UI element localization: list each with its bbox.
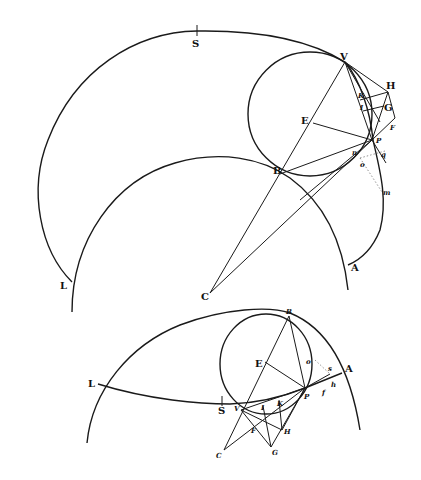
label-top-B: B	[273, 165, 281, 176]
label-top-o: o	[360, 160, 365, 169]
label-top-I: I	[359, 103, 364, 112]
label-bottom-I: I	[260, 403, 265, 412]
bottom-figure: B E o s A L P f h S V I K F H C G	[87, 307, 360, 460]
label-bottom-F: F	[250, 426, 257, 435]
label-bottom-A: A	[344, 363, 353, 374]
line-CP	[224, 388, 305, 450]
label-bottom-K: K	[276, 399, 284, 408]
label-top-G: G	[384, 102, 393, 113]
label-top-L: L	[60, 280, 67, 291]
label-top-n: n	[352, 148, 357, 157]
line-BP	[280, 140, 372, 174]
line-Pn	[300, 140, 372, 200]
label-bottom-f: f	[321, 388, 327, 397]
label-bottom-L: L	[88, 378, 95, 389]
label-bottom-C: C	[216, 451, 222, 460]
label-bottom-G: G	[272, 448, 278, 457]
label-top-S: S	[192, 38, 199, 49]
label-top-q: q	[381, 150, 386, 159]
label-bottom-s: s	[328, 364, 332, 373]
label-top-K: K	[357, 91, 365, 100]
line-IG	[263, 406, 271, 447]
line-EP	[265, 362, 305, 388]
label-bottom-o: o	[306, 357, 311, 366]
line-CV	[210, 62, 345, 293]
line-KH	[360, 92, 388, 100]
label-top-P: P	[375, 136, 382, 145]
top-base-circle-arc	[72, 157, 348, 312]
line-EP	[313, 123, 372, 140]
label-bottom-E: E	[255, 358, 263, 369]
bottom-base-circle-arc	[87, 309, 360, 443]
label-bottom-P: P	[303, 392, 310, 401]
label-bottom-S: S	[218, 405, 225, 416]
label-top-V: V	[339, 51, 348, 62]
top-figure: S V H K I G E F P n q o m B L A C	[38, 25, 396, 312]
label-bottom-B: B	[285, 307, 292, 316]
label-top-C: C	[201, 291, 209, 302]
line-CP	[210, 140, 372, 293]
label-bottom-h: h	[331, 380, 336, 389]
label-top-H: H	[386, 80, 395, 91]
label-bottom-H: H	[283, 427, 291, 436]
line-VG	[241, 410, 271, 447]
label-top-E: E	[301, 115, 309, 126]
label-top-m: m	[383, 188, 390, 197]
label-top-A: A	[350, 262, 359, 273]
geometry-diagram: S V H K I G E F P n q o m B L A C	[0, 0, 421, 480]
line-VP	[241, 388, 305, 410]
label-top-F: F	[389, 123, 396, 132]
